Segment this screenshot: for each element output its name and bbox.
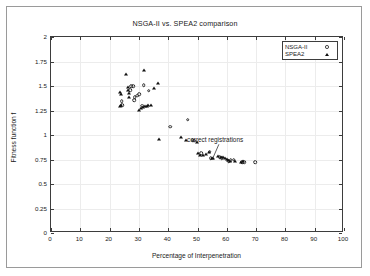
x-tick-label: 0 [48, 235, 51, 242]
x-tick-label: 20 [105, 235, 112, 242]
y-tick [51, 233, 54, 234]
x-tick-label: 70 [252, 235, 259, 242]
x-tick-label: 90 [310, 235, 317, 242]
x-tick-label: 100 [338, 235, 348, 242]
x-tick-label: 10 [76, 235, 83, 242]
chart-title: NSGA-II vs. SPEA2 comparison [0, 19, 370, 28]
x-tick-label: 50 [193, 235, 200, 242]
y-tick-label: 0.25 [0, 204, 47, 211]
x-tick-label: 60 [222, 235, 229, 242]
x-tick-label: 30 [134, 235, 141, 242]
x-tick [344, 37, 345, 40]
annotation-leader-line [51, 37, 344, 233]
chart-figure: NSGA-II vs. SPEA2 comparison NSGA-II SPE… [0, 0, 370, 276]
y-tick-label: 1 [0, 131, 47, 138]
y-tick-label: 2 [0, 33, 47, 40]
y-tick-label: 1.25 [0, 106, 47, 113]
y-tick-label: 0.5 [0, 180, 47, 187]
x-axis-title: Percentage of Interpenetration [50, 252, 343, 259]
y-tick-label: 1.5 [0, 82, 47, 89]
plot-area: NSGA-II SPEA2 correct registrations [50, 36, 343, 232]
y-tick-label: 0 [0, 229, 47, 236]
x-tick-label: 40 [164, 235, 171, 242]
y-tick-label: 1.75 [0, 57, 47, 64]
y-tick-label: 0.75 [0, 155, 47, 162]
y-tick [339, 233, 342, 234]
x-tick [344, 228, 345, 231]
x-tick-label: 80 [281, 235, 288, 242]
